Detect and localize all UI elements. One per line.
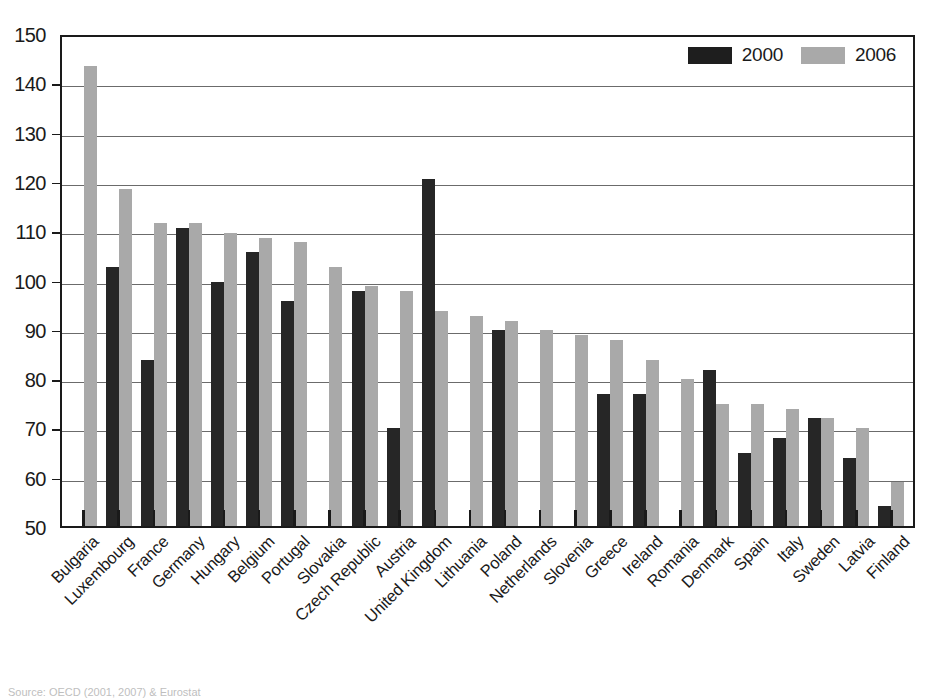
bar-group [382,37,417,526]
x-axis-tick-mark [398,510,401,526]
x-axis-tick-mark [679,510,682,526]
bars-layer [62,37,913,526]
x-axis-labels: BulgariaLuxembourgFranceGermanyHungaryBe… [60,528,915,678]
bar-2000 [281,301,294,526]
bar-2006 [575,335,588,526]
y-axis-tick-label: 100 [14,272,46,292]
bar-group [769,37,804,526]
bar-2006 [540,330,553,526]
y-axis-tick-label: 130 [14,124,46,144]
x-axis-tick-mark [820,510,823,526]
bar-2006 [119,189,132,526]
bar-group [874,37,909,526]
x-axis-tick-mark [750,510,753,526]
bar-group [733,37,768,526]
bar-2006 [435,311,448,526]
legend-item-2006: 2006 [801,44,896,66]
bar-2000 [106,267,119,526]
x-axis-tick-mark [609,510,612,526]
x-axis-tick-mark [469,510,472,526]
bar-2006 [610,340,623,526]
y-axis-tick-label: 120 [14,173,46,193]
bar-group [698,37,733,526]
bar-group [101,37,136,526]
y-axis: 5060708090100110120130140150 [0,0,60,565]
bar-2006 [154,223,167,526]
legend-label-2000: 2000 [742,44,783,66]
x-axis-tick-mark [504,510,507,526]
bar-group [417,37,452,526]
bar-2006 [681,379,694,526]
legend-label-2006: 2006 [855,44,896,66]
bar-chart: 5060708090100110120130140150 2000 2006 B… [0,0,926,700]
y-axis-tick-label: 150 [14,25,46,45]
x-axis-tick-mark [153,510,156,526]
bar-group [312,37,347,526]
bar-2006 [294,242,307,526]
x-axis-tick-mark [258,510,261,526]
bar-2000 [703,370,716,526]
y-axis-tick-label: 50 [25,518,46,538]
y-axis-tick-label: 70 [25,419,46,439]
bar-2000 [211,282,224,527]
x-axis-tick-mark [785,510,788,526]
bar-group [523,37,558,526]
bar-2000 [141,360,154,526]
x-axis-tick-mark [117,510,120,526]
black-swatch-icon [688,47,732,64]
bar-2000 [597,394,610,526]
bar-group [628,37,663,526]
bar-2006 [470,316,483,526]
bar-2006 [259,238,272,527]
y-axis-tick-label: 110 [16,222,46,242]
bar-2006 [751,404,764,526]
bar-group [452,37,487,526]
bar-group [804,37,839,526]
x-axis-tick-mark [188,510,191,526]
bar-2000 [176,228,189,526]
bar-group [66,37,101,526]
bar-2006 [400,291,413,526]
bar-2000 [633,394,646,526]
bar-group [277,37,312,526]
x-axis-tick-mark [363,510,366,526]
y-axis-tick-label: 60 [25,469,46,489]
legend-item-2000: 2000 [688,44,783,66]
bar-2006 [786,409,799,526]
bar-2006 [646,360,659,526]
bar-group [136,37,171,526]
x-axis-tick-mark [715,510,718,526]
bar-2000 [352,291,365,526]
x-axis-tick-mark [539,510,542,526]
bar-2006 [365,286,378,526]
bar-group [171,37,206,526]
x-axis-tick-mark [644,510,647,526]
bar-2006 [856,428,869,526]
y-axis-tick-label: 90 [25,321,46,341]
bar-2006 [891,482,904,526]
bar-group [207,37,242,526]
bar-group [558,37,593,526]
x-axis-tick-mark [328,510,331,526]
x-axis-tick-mark [890,510,893,526]
bar-2000 [422,179,435,526]
bar-2006 [189,223,202,526]
y-axis-tick-label: 80 [25,370,46,390]
bar-group [839,37,874,526]
x-axis-tick-mark [574,510,577,526]
x-axis-tick-mark [223,510,226,526]
bar-2000 [246,252,259,526]
bar-2006 [224,233,237,526]
bar-group [488,37,523,526]
bar-group [593,37,628,526]
bar-group [347,37,382,526]
bar-2006 [821,418,834,526]
y-axis-tick-label: 140 [14,74,46,94]
gray-swatch-icon [801,47,845,64]
bar-2006 [505,321,518,526]
plot-area [60,35,915,528]
bar-2006 [716,404,729,526]
x-axis-tick-mark [855,510,858,526]
source-note: Source: OECD (2001, 2007) & Eurostat [8,686,201,698]
bar-2000 [492,330,505,526]
